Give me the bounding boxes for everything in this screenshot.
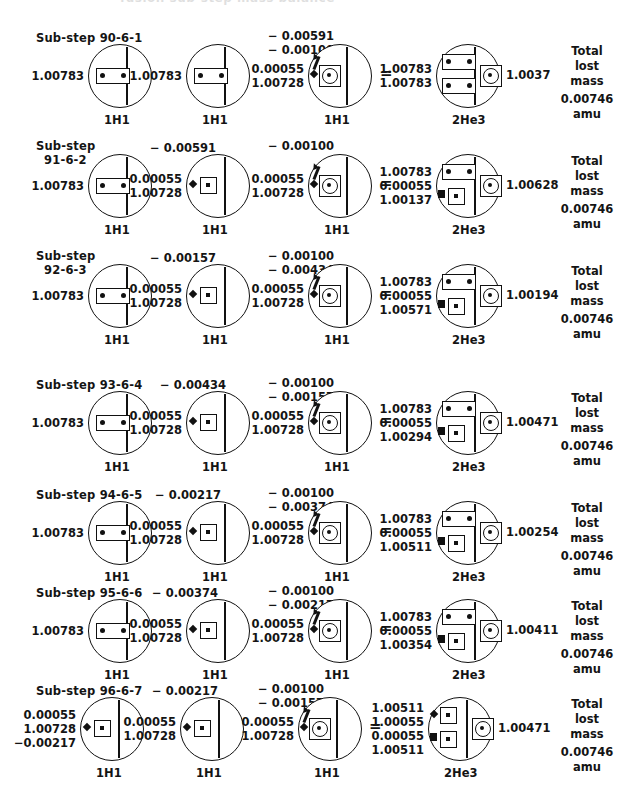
nucleus-core (327, 293, 331, 297)
neutron-dot (454, 639, 458, 643)
nuclide-label: 1H1 (196, 767, 222, 780)
atom3-value: 1.00728 (252, 77, 304, 90)
substep-heading: Sub-step 93-6-4 (36, 379, 142, 392)
nucleus-box (480, 285, 502, 307)
proton-pair-box (194, 68, 228, 84)
nucleus-core (488, 183, 492, 187)
nuclide-label: 2He3 (452, 669, 485, 682)
total-value: 0.00746 (555, 745, 619, 760)
nuclide-label: 2He3 (444, 767, 477, 780)
total-lost-mass-block: Totallostmass0.00746amu (555, 154, 619, 232)
atom3-value: 0.00055 (252, 63, 304, 76)
total-unit: amu (555, 327, 619, 342)
atom4-value: 0.00055 (380, 290, 432, 303)
nuclide-label: 1H1 (324, 571, 350, 584)
nucleus-box (480, 65, 502, 87)
nuclide-label: 2He3 (452, 571, 485, 584)
atom1-value: 1.00783 (32, 290, 84, 303)
atom4-value: 1.00511 (380, 541, 432, 554)
nucleus-ring (483, 525, 499, 541)
nucleus-core (327, 183, 331, 187)
proton-dot (198, 73, 203, 78)
neutron-dot (446, 713, 450, 717)
total-lost-mass-block: Totallostmass0.00746amu (555, 501, 619, 579)
edge-square-marker (438, 537, 445, 545)
emission-arrow (310, 401, 324, 417)
diagram-sheet: fusion sub-step mass balance Sub-step 90… (0, 0, 622, 793)
total-value: 0.00746 (555, 549, 619, 564)
nucleus-ring (483, 623, 499, 639)
atom-axis (346, 504, 348, 562)
emission-arrow (310, 511, 324, 527)
term-minus-2: − 0.00374 (152, 587, 218, 600)
emission-arrow (310, 609, 324, 625)
neutron-dot (206, 628, 210, 632)
nucleus-ring (322, 415, 338, 431)
total-label-3: mass (555, 421, 619, 436)
nucleus-core (488, 420, 492, 424)
clipped-header-text: fusion sub-step mass balance (120, 0, 335, 5)
atom4-value: 1.00055 (372, 716, 424, 729)
atom-1h1-2 (186, 264, 250, 328)
atom-1h1-3 (308, 599, 372, 663)
nucleus-box (480, 620, 502, 642)
proton-pair-box (96, 525, 130, 541)
result-value: 1.00254 (506, 526, 558, 539)
edge-square-marker (438, 190, 445, 198)
substep-row: Sub-step 95-6-6− 0.00374− 0.00100− 0.002… (0, 585, 622, 693)
nuclide-label: 1H1 (324, 224, 350, 237)
substep-id: 92-6-3 (44, 264, 87, 277)
nuclide-label: 1H1 (202, 669, 228, 682)
nucleus-ring (322, 68, 338, 84)
nuclide-label: 2He3 (452, 224, 485, 237)
neutron-dot (206, 293, 210, 297)
total-lost-mass-block: Totallostmass0.00746amu (555, 599, 619, 677)
proton-pair-box (442, 78, 476, 94)
total-label-2: lost (555, 614, 619, 629)
atom-axis (346, 267, 348, 325)
proton-dot (100, 293, 105, 298)
neutron-dot (446, 737, 450, 741)
proton-pair-box (96, 623, 130, 639)
result-value: 1.00411 (506, 624, 558, 637)
proton-dot (121, 73, 126, 78)
atom2-value: 1.00728 (130, 187, 182, 200)
nucleon-box (200, 414, 217, 431)
proton-dot (100, 183, 105, 188)
atom4-value: 1.00294 (380, 431, 432, 444)
term-minus-3: − 0.00100 (268, 250, 334, 263)
atom4-value: 0.00055 (380, 417, 432, 430)
atom2-value: 0.00055 (130, 618, 182, 631)
atom3-value: 0.00055 (252, 618, 304, 631)
total-value: 0.00746 (555, 647, 619, 662)
proton-pair-box (442, 401, 476, 417)
total-label-1: Total (555, 154, 619, 169)
atom1-value: −0.00217 (14, 737, 76, 750)
atom-axis (336, 700, 338, 758)
atom-2he3-4 (436, 44, 500, 108)
neutron-dot (200, 726, 204, 730)
nucleon-box (94, 720, 111, 737)
nucleus-box (472, 718, 494, 740)
nuclide-label: 1H1 (202, 114, 228, 127)
nucleon-box (440, 707, 457, 724)
total-label-1: Total (555, 44, 619, 59)
atom4-value: 1.00511 (372, 702, 424, 715)
proton-dot (121, 628, 126, 633)
total-unit: amu (555, 760, 619, 775)
atom4-value: 1.00783 (380, 403, 432, 416)
nucleon-box (448, 535, 465, 552)
proton-dot (446, 516, 451, 521)
total-unit: amu (555, 564, 619, 579)
proton-dot (446, 83, 451, 88)
total-label-3: mass (555, 727, 619, 742)
atom-axis (346, 157, 348, 215)
total-label-2: lost (555, 712, 619, 727)
total-label-3: mass (555, 531, 619, 546)
atom-axis (346, 394, 348, 452)
atom-axis (224, 267, 226, 325)
edge-square-marker (438, 427, 445, 435)
proton-dot (100, 420, 105, 425)
atom-1h1-3 (308, 264, 372, 328)
proton-dot (467, 59, 472, 64)
